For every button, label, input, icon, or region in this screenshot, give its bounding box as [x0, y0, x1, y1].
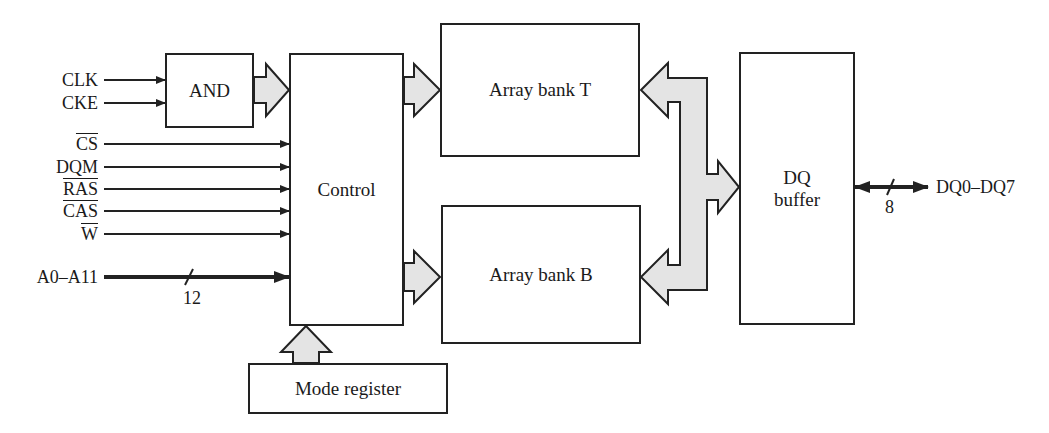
control-label: Control — [317, 179, 375, 201]
and-gate-label: AND — [189, 80, 230, 102]
address-bus — [104, 269, 289, 285]
cs-label: CS — [76, 134, 98, 154]
and-to-control-arrow — [254, 64, 289, 116]
clk-label: CLK — [62, 70, 98, 90]
dq-buffer-label-line1: DQ — [783, 167, 810, 189]
dq-buffer-label-line2: buffer — [774, 189, 820, 211]
and-gate-block: AND — [165, 53, 254, 128]
sdram-block-diagram: CLK CKE CS DQM RAS CAS W A0–A11 12 AND C… — [0, 0, 1049, 433]
bank-dq-bus — [641, 63, 739, 304]
mode-register-block: Mode register — [248, 363, 448, 414]
control-to-bank-t-arrow — [404, 64, 440, 116]
cas-label: CAS — [63, 201, 98, 221]
dqm-label: DQM — [56, 157, 98, 177]
dq-data-bus — [855, 179, 928, 195]
array-bank-t-label: Array bank T — [489, 79, 591, 101]
mode-to-control-arrow — [281, 326, 331, 363]
ras-label: RAS — [63, 179, 98, 199]
cke-label: CKE — [62, 93, 98, 113]
dq-bus-width: 8 — [885, 197, 894, 217]
array-bank-b-label: Array bank B — [489, 264, 592, 286]
control-block: Control — [289, 53, 404, 326]
control-to-bank-b-arrow — [404, 251, 440, 303]
dq-buffer-block: DQ buffer — [739, 52, 855, 325]
array-bank-b-block: Array bank B — [441, 205, 641, 344]
address-bus-width: 12 — [183, 288, 201, 308]
array-bank-t-block: Array bank T — [440, 23, 640, 157]
w-label: W — [81, 224, 98, 244]
address-label: A0–A11 — [37, 267, 98, 287]
dq-bus-label: DQ0–DQ7 — [936, 177, 1015, 197]
mode-register-label: Mode register — [295, 378, 401, 400]
